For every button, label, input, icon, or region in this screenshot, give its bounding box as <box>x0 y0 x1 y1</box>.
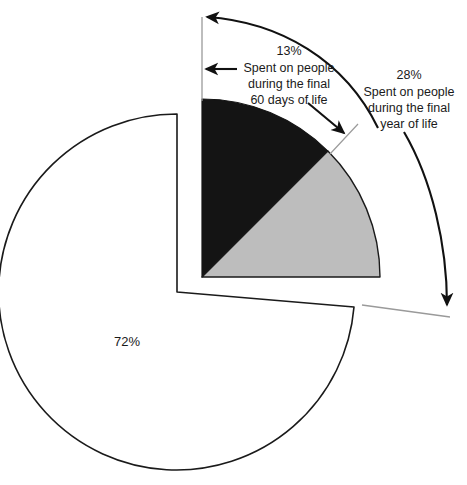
label-13-line2: during the final <box>248 77 330 91</box>
label-28-line1: Spent on people <box>363 85 454 99</box>
callout-28-percent: 28% Spent on people during the final yea… <box>363 68 454 131</box>
label-28-line2: during the final <box>368 101 450 115</box>
label-28-percent: 28% <box>396 68 421 82</box>
boundary-leader-line <box>330 124 358 154</box>
horizontal-reference-line <box>362 305 450 317</box>
pie-chart-svg: 13% Spent on people during the final 60 … <box>0 0 467 485</box>
arrow-boundary-pointer <box>308 103 344 133</box>
label-28-line3: year of life <box>380 117 438 131</box>
callout-13-percent: 13% Spent on people during the final 60 … <box>243 44 334 107</box>
pie-chart-figure: 13% Spent on people during the final 60 … <box>0 0 467 485</box>
label-13-percent: 13% <box>276 44 301 58</box>
span-arc-28-lower <box>404 132 447 305</box>
label-13-line1: Spent on people <box>243 61 334 75</box>
label-13-line3: 60 days of life <box>250 93 327 107</box>
label-72-percent: 72% <box>114 334 140 349</box>
